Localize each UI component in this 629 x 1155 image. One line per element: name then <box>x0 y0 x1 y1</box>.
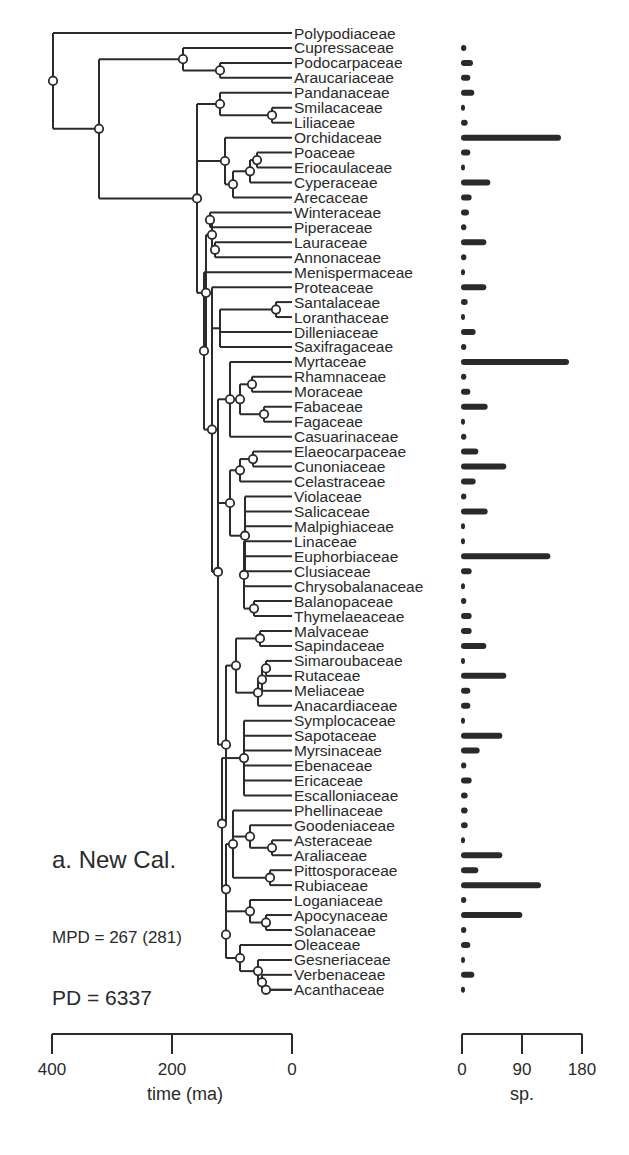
node-marker-icon <box>268 844 276 852</box>
species-bar <box>461 419 465 425</box>
species-bar <box>461 763 466 769</box>
species-bar <box>461 180 490 186</box>
species-bar <box>461 449 478 455</box>
species-bar <box>461 299 468 305</box>
node-marker-icon <box>216 100 224 108</box>
species-bar <box>461 523 465 529</box>
phylogeny-figure: PolypodiaceaeCupressaceaePodocarpaceaeAr… <box>0 0 629 1155</box>
species-bar <box>461 404 488 410</box>
species-bar <box>461 239 486 245</box>
node-marker-icon <box>202 289 210 297</box>
species-bar <box>461 658 465 664</box>
species-bar <box>461 374 466 380</box>
node-marker-icon <box>179 55 187 63</box>
species-bar <box>461 553 550 559</box>
node-marker-icon <box>222 740 230 748</box>
species-axis <box>462 1034 582 1054</box>
species-bar <box>461 269 465 275</box>
species-bar <box>461 718 465 724</box>
species-bar <box>461 568 472 574</box>
species-bar <box>461 778 472 784</box>
node-marker-icon <box>246 907 254 915</box>
node-marker-icon <box>208 425 216 433</box>
node-marker-icon <box>232 661 240 669</box>
pd-statistic: PD = 6337 <box>52 986 152 1009</box>
species-bar <box>461 254 466 260</box>
species-bar <box>461 643 486 649</box>
species-bar <box>461 852 502 858</box>
node-marker-icon <box>258 978 266 986</box>
species-bar <box>461 45 466 51</box>
species-bar <box>461 209 469 215</box>
node-marker-icon <box>206 216 214 224</box>
node-marker-icon <box>221 157 229 165</box>
species-bar <box>461 90 474 96</box>
taxon-labels: PolypodiaceaeCupressaceaePodocarpaceaeAr… <box>294 25 423 999</box>
node-marker-icon <box>266 873 274 881</box>
species-bar <box>461 613 472 619</box>
node-marker-icon <box>246 167 254 175</box>
species-bar <box>461 942 470 948</box>
node-marker-icon <box>236 954 244 962</box>
node-marker-icon <box>240 571 248 579</box>
species-bar <box>461 897 466 903</box>
node-marker-icon <box>236 466 244 474</box>
species-bar <box>461 150 470 156</box>
species-bar <box>461 120 468 126</box>
species-bar <box>461 329 476 335</box>
node-marker-icon <box>260 410 268 418</box>
species-bar <box>461 60 473 66</box>
species-bar <box>461 673 506 679</box>
species-bar <box>461 837 465 843</box>
species-bar <box>461 434 466 440</box>
species-bar <box>461 344 466 350</box>
node-marker-icon <box>226 395 234 403</box>
time-tick-0: 0 <box>287 1060 296 1079</box>
node-marker-icon <box>218 820 226 828</box>
species-bar <box>461 807 468 813</box>
species-bar <box>461 628 472 634</box>
species-bar <box>461 538 465 544</box>
species-bar <box>461 987 465 993</box>
species-bar <box>461 493 466 499</box>
node-marker-icon <box>272 305 280 313</box>
species-bar <box>461 105 465 111</box>
node-marker-icon <box>262 918 270 926</box>
panel-label: a. New Cal. <box>52 846 176 873</box>
species-bar <box>461 165 465 171</box>
species-bar <box>461 822 468 828</box>
species-bar <box>461 75 470 81</box>
species-bar <box>461 583 465 589</box>
species-bar <box>461 135 561 141</box>
node-marker-icon <box>211 246 219 254</box>
node-marker-icon <box>248 380 256 388</box>
species-bar <box>461 972 474 978</box>
node-marker-icon <box>236 395 244 403</box>
node-marker-icon <box>249 455 257 463</box>
node-marker-icon <box>254 967 262 975</box>
node-marker-icon <box>253 156 261 164</box>
time-tick-400: 400 <box>38 1060 66 1079</box>
species-bar <box>461 479 476 485</box>
node-marker-icon <box>268 111 276 119</box>
species-bar <box>461 927 466 933</box>
species-bar <box>461 957 465 963</box>
species-bar <box>461 703 470 709</box>
node-marker-icon <box>229 840 237 848</box>
sp-tick-90: 90 <box>513 1060 532 1079</box>
time-axis-title: time (ma) <box>147 1084 223 1104</box>
species-bar <box>461 284 486 290</box>
node-marker-icon <box>193 194 201 202</box>
node-marker-icon <box>240 754 248 762</box>
node-marker-icon <box>95 125 103 133</box>
species-bar <box>461 359 569 365</box>
sp-tick-180: 180 <box>568 1060 596 1079</box>
species-bars <box>461 45 569 993</box>
species-bar <box>461 748 480 754</box>
species-bar <box>461 912 522 918</box>
taxon-label: Acanthaceae <box>294 981 385 998</box>
species-bar <box>461 314 465 320</box>
species-bar <box>461 224 466 230</box>
species-bar <box>461 867 478 873</box>
node-marker-icon <box>222 930 230 938</box>
